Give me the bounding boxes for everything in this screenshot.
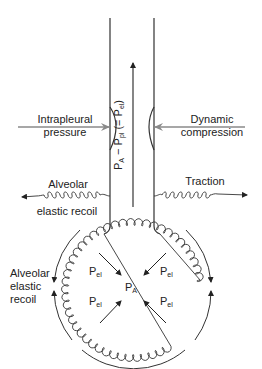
recoil-arc-left-lower <box>54 291 72 340</box>
intrapleural-label: Intrapleural pressure <box>30 113 100 139</box>
intrapleural-line1: Intrapleural <box>30 113 100 126</box>
alveolar-recoil-top-line1: Alveolar <box>28 178 108 191</box>
diagram: Intrapleural pressure Dynamic compressio… <box>0 0 262 369</box>
pel-arrow-bottom-left <box>100 301 121 323</box>
pel-label-top-right: Pel <box>160 265 173 278</box>
intrapleural-line2: pressure <box>30 126 100 139</box>
pressure-equation-label: PA − Ppl (= Pel) <box>112 100 125 170</box>
pel-label-bottom-left: Pel <box>89 295 102 308</box>
airway-right-wall <box>154 18 160 234</box>
alveolar-recoil-top-line2: elastic recoil <box>24 205 110 218</box>
alveolar-recoil-spring <box>22 192 110 198</box>
side-line3: recoil <box>10 293 50 306</box>
side-line2: elastic <box>10 280 50 293</box>
alveolar-recoil-side-label: Alveolar elastic recoil <box>10 267 50 306</box>
traction-spring <box>154 192 247 198</box>
dynamic-line1: Dynamic <box>172 113 252 126</box>
pa-label: PA <box>125 281 137 294</box>
recoil-arc-right-upper <box>186 230 211 282</box>
recoil-arc-right-lower <box>195 291 211 340</box>
side-line1: Alveolar <box>10 267 50 280</box>
dynamic-line2: compression <box>172 126 252 139</box>
recoil-arc-left-upper <box>54 230 80 282</box>
pel-label-bottom-right: Pel <box>160 295 173 308</box>
airway-left-wall <box>104 18 110 234</box>
compression-bulge-right <box>149 107 154 150</box>
dynamic-compression-label: Dynamic compression <box>172 113 252 139</box>
pel-label-top-left: Pel <box>89 265 102 278</box>
traction-label: Traction <box>170 175 240 188</box>
